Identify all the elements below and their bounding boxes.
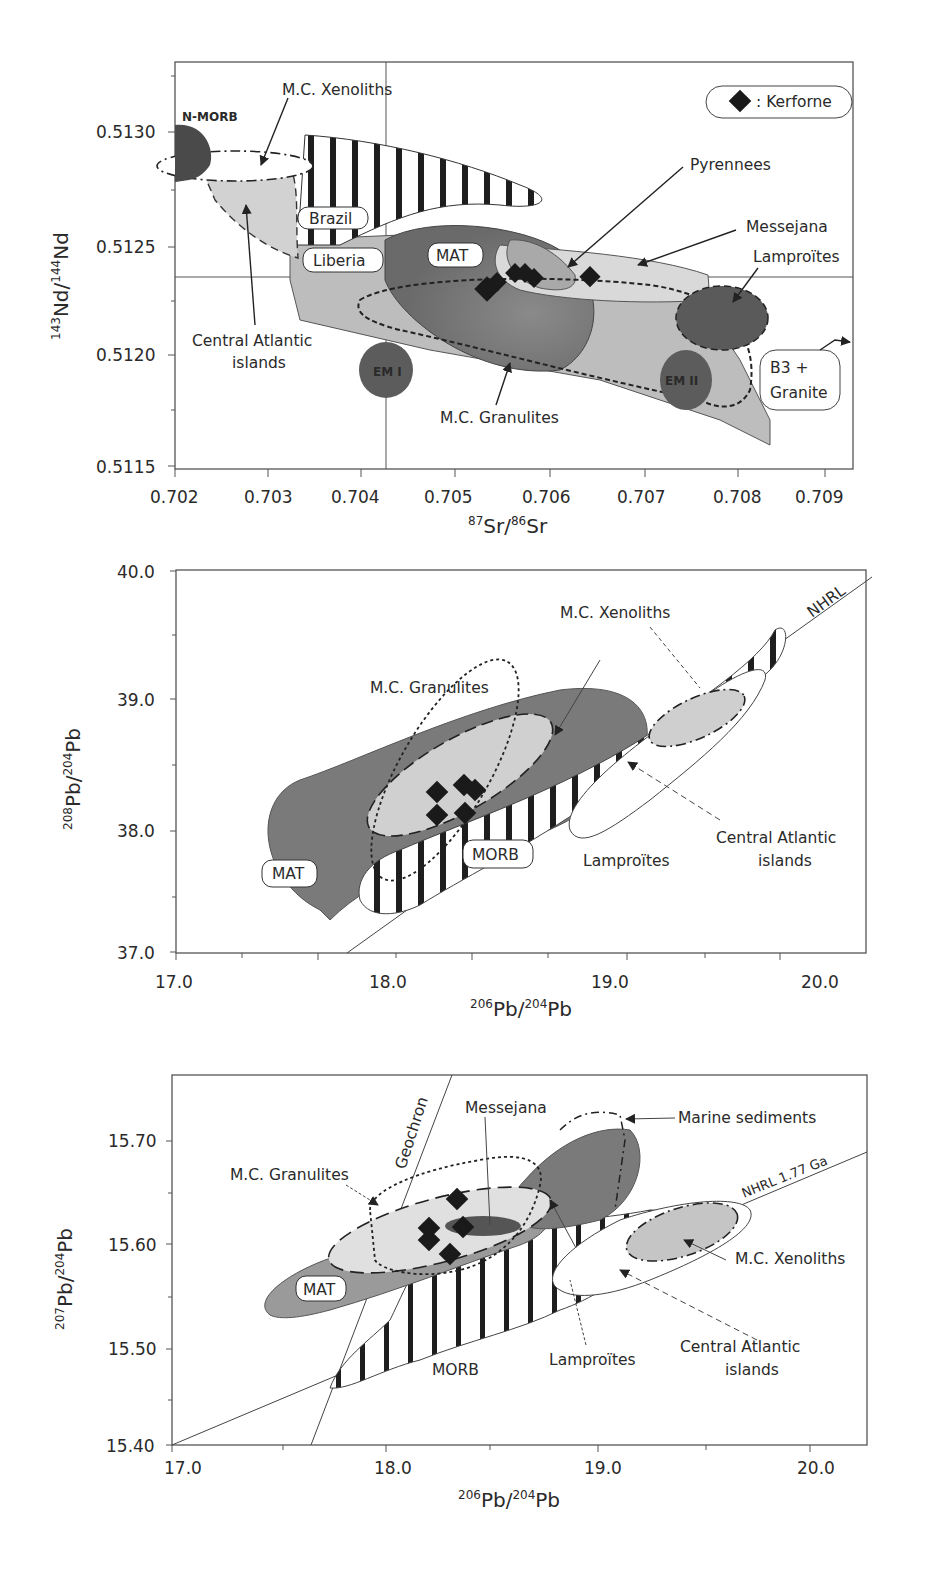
label-mc-granulites: M.C. Granulites xyxy=(370,679,489,697)
y-tick-label: 15.70 xyxy=(108,1131,157,1151)
x-tick-label: 19.0 xyxy=(584,1458,622,1478)
label-lamproites: Lamproïtes xyxy=(753,248,840,266)
panel-207pb-206pb: Geochron Messejana Marine sediments M.C.… xyxy=(53,1075,867,1512)
y-tick-label: 15.50 xyxy=(108,1339,157,1359)
label-mc-granulites: M.C. Granulites xyxy=(230,1166,349,1184)
label-central-atlantic: Central Atlantic xyxy=(192,332,312,350)
x-tick-label: 0.703 xyxy=(244,487,293,507)
label-mat: MAT xyxy=(436,247,469,265)
y-tick-label: 0.5125 xyxy=(96,237,155,257)
label-lamproites: Lamproïtes xyxy=(549,1351,636,1369)
label-morb: MORB xyxy=(472,846,519,864)
y-tick-label: 37.0 xyxy=(117,943,155,963)
panel-208pb-206pb: M.C. Granulites M.C. Xenoliths NHRL MAT … xyxy=(61,562,872,1021)
x-axis-title: 87Sr/86Sr xyxy=(468,514,548,538)
panel-nd-sr: N-MORB M.C. Xenoliths Brazil Liberia MAT… xyxy=(49,62,853,538)
x-tick-label: 20.0 xyxy=(797,1458,835,1478)
label-mat: MAT xyxy=(272,865,305,883)
x-axis-title: 206Pb/204Pb xyxy=(458,1488,560,1512)
y-axis-ticks xyxy=(170,571,176,952)
x-axis-ticks xyxy=(175,469,825,477)
label-mat: MAT xyxy=(303,1281,336,1299)
y-tick-label: 39.0 xyxy=(117,690,155,710)
y-tick-label: 15.40 xyxy=(106,1436,155,1456)
x-tick-label: 19.0 xyxy=(591,972,629,992)
x-axis-ticks xyxy=(172,1445,810,1452)
label-liberia: Liberia xyxy=(313,252,366,270)
x-axis-ticks xyxy=(176,953,780,960)
label-islands: islands xyxy=(725,1361,779,1379)
label-mc-xenoliths: M.C. Xenoliths xyxy=(560,604,670,622)
y-axis-title: 208Pb/204Pb xyxy=(61,728,85,830)
label-mc-xenoliths: M.C. Xenoliths xyxy=(735,1250,845,1268)
label-lamproites: Lamproïtes xyxy=(583,852,670,870)
label-granite: Granite xyxy=(770,384,828,402)
x-tick-label: 18.0 xyxy=(374,1458,412,1478)
x-tick-label: 0.707 xyxy=(617,487,666,507)
x-tick-label: 0.705 xyxy=(424,487,473,507)
label-marine-sediments: Marine sediments xyxy=(678,1109,816,1127)
y-tick-label: 0.5120 xyxy=(96,345,155,365)
x-tick-label: 17.0 xyxy=(164,1458,202,1478)
x-tick-label: 0.708 xyxy=(713,487,762,507)
x-tick-label: 17.0 xyxy=(155,972,193,992)
label-central-atlantic: Central Atlantic xyxy=(680,1338,800,1356)
label-em-i: EM I xyxy=(373,365,402,379)
label-b3: B3 + xyxy=(770,359,808,377)
y-axis-ticks xyxy=(168,76,175,466)
x-tick-label: 18.0 xyxy=(369,972,407,992)
x-axis-title: 206Pb/204Pb xyxy=(470,997,572,1021)
label-messejana: Messejana xyxy=(746,218,828,236)
label-islands: islands xyxy=(232,354,286,372)
label-geochron: Geochron xyxy=(392,1095,432,1172)
y-tick-label: 0.5130 xyxy=(96,122,155,142)
y-tick-label: 0.5115 xyxy=(96,457,155,477)
figure: N-MORB M.C. Xenoliths Brazil Liberia MAT… xyxy=(0,0,928,1581)
label-morb: MORB xyxy=(432,1361,479,1379)
y-tick-label: 38.0 xyxy=(117,821,155,841)
x-tick-label: 20.0 xyxy=(801,972,839,992)
label-central-atlantic: Central Atlantic xyxy=(716,829,836,847)
legend-label-kerforne: : Kerforne xyxy=(756,93,832,111)
x-tick-label: 0.706 xyxy=(522,487,571,507)
label-n-morb: N-MORB xyxy=(182,110,238,124)
field-lamproites xyxy=(676,286,768,350)
label-messejana: Messejana xyxy=(465,1099,547,1117)
label-em-ii: EM II xyxy=(665,374,698,388)
y-axis-title: 207Pb/204Pb xyxy=(53,1228,77,1330)
y-axis-ticks xyxy=(166,1141,172,1445)
label-brazil: Brazil xyxy=(309,210,352,228)
label-mc-xenoliths: M.C. Xenoliths xyxy=(282,81,392,99)
y-axis-title: 143Nd/144Nd xyxy=(49,232,73,340)
label-nhrl: NHRL 1.77 Ga xyxy=(740,1153,830,1201)
x-tick-label: 0.704 xyxy=(331,487,380,507)
label-mc-granulites: M.C. Granulites xyxy=(440,409,559,427)
label-islands: islands xyxy=(758,852,812,870)
y-tick-label: 15.60 xyxy=(108,1235,157,1255)
y-tick-label: 40.0 xyxy=(117,562,155,582)
label-pyrennees: Pyrennees xyxy=(690,156,771,174)
x-tick-label: 0.709 xyxy=(795,487,844,507)
label-nhrl: NHRL xyxy=(804,581,849,621)
x-tick-label: 0.702 xyxy=(150,487,199,507)
